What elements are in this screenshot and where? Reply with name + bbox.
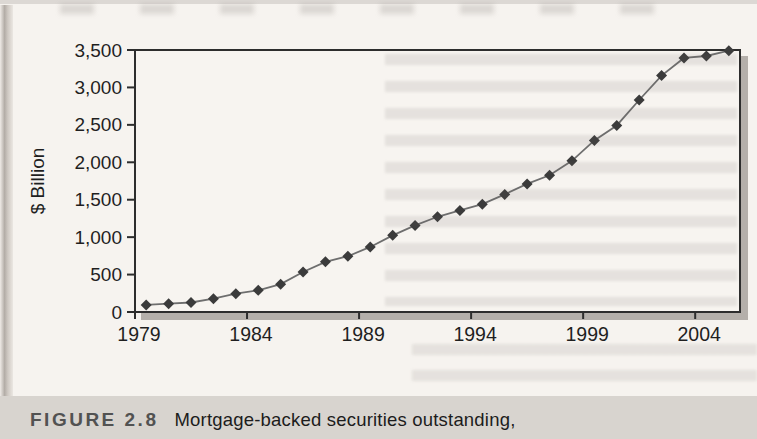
scanned-textbook-page: 05001,0001,5002,0002,5003,0003,500197919…: [0, 0, 757, 439]
y-axis-tick-label: 2,500: [74, 114, 122, 135]
figure-caption-band: FIGURE 2.8Mortgage-backed securities out…: [0, 396, 757, 439]
y-axis-tick-label: 1,500: [74, 189, 122, 210]
mbs-line-chart: 05001,0001,5002,0002,5003,0003,500197919…: [0, 0, 757, 396]
x-axis-tick-label: 1994: [453, 323, 497, 345]
y-axis-tick-label: 2,000: [74, 152, 122, 173]
figure-caption-row: FIGURE 2.8Mortgage-backed securities out…: [0, 396, 757, 431]
x-axis-tick-label: 1979: [117, 323, 160, 345]
y-axis-tick-label: 1,000: [74, 227, 122, 248]
x-axis-tick-label: 1999: [565, 323, 608, 345]
y-axis-tick-label: 0: [111, 302, 122, 323]
x-axis-tick-label: 1984: [229, 323, 273, 345]
x-axis-tick-label: 1989: [341, 323, 384, 345]
y-axis-title: $ Billion: [27, 148, 48, 215]
figure-caption-text: Mortgage-backed securities outstanding,: [174, 409, 515, 430]
y-axis-tick-label: 500: [90, 264, 122, 285]
x-axis-tick-label: 2004: [677, 323, 721, 345]
y-axis-tick-label: 3,000: [74, 77, 122, 98]
y-axis-tick-label: 3,500: [74, 40, 122, 61]
figure-number-label: FIGURE 2.8: [30, 409, 158, 430]
